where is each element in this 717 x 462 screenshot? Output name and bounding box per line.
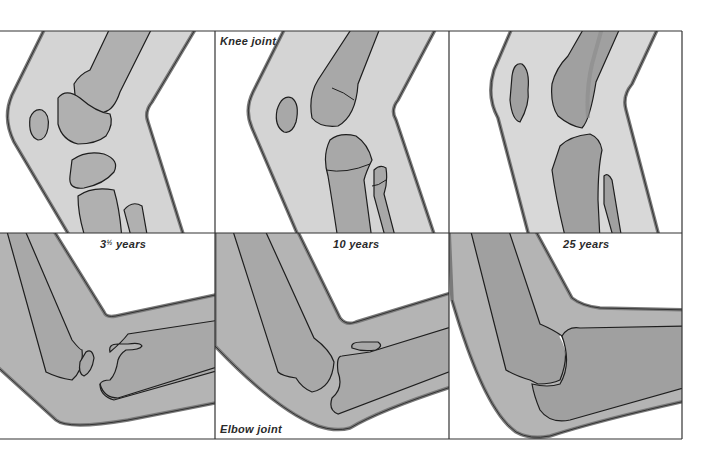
joint-development-figure: Knee joint Elbow joint 3½ years 10 years… [0,0,717,462]
figure-artwork [0,0,717,462]
column-label-3-5-years: 3½ years [100,238,146,250]
column-label-10-years: 10 years [333,238,379,250]
panel-knee-25-years [491,28,660,240]
column-label-25-years: 25 years [563,238,609,250]
patella-bone [30,110,49,140]
panel-elbow-10-years [215,228,454,430]
panel-elbow-25-years [449,228,690,437]
panel-elbow-3-5-years [0,228,220,425]
age-unit: years [113,238,147,250]
tibia-bone [78,189,122,240]
panel-knee-10-years [248,28,436,240]
radius-head [352,342,381,351]
panel-knee-3-5-years [7,28,196,240]
row-label-elbow-joint: Elbow joint [220,423,282,435]
row-label-knee-joint: Knee joint [220,35,276,47]
